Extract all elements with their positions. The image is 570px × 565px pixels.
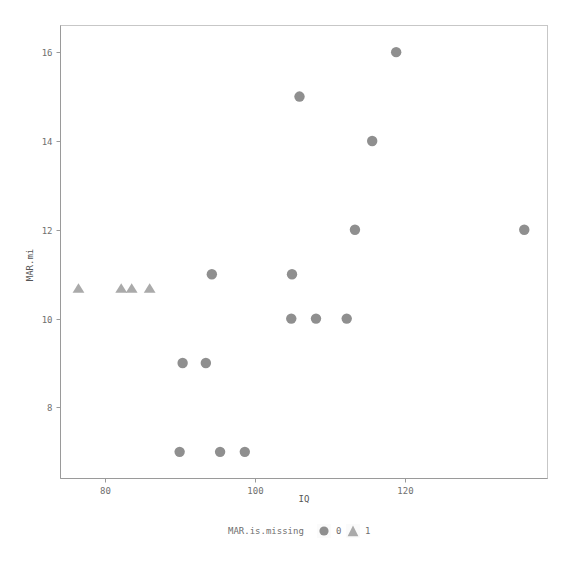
legend: MAR.is.missing 0 1 [228,524,370,538]
x-tick-label: 100 [247,486,263,496]
x-axis-title: IQ [299,494,310,504]
y-tick-label: 14 [42,137,53,147]
data-point-circle[interactable] [287,269,297,279]
y-tick-label: 16 [42,48,53,58]
y-tick-label: 8 [47,403,52,413]
data-point-circle[interactable] [391,47,401,57]
y-tick-label: 12 [42,226,53,236]
data-point-circle[interactable] [294,91,304,101]
data-point-circle[interactable] [350,225,360,235]
data-point-circle[interactable] [177,358,187,368]
data-point-circle[interactable] [174,447,184,457]
x-tick-label: 80 [100,486,111,496]
data-point-circle[interactable] [201,358,211,368]
data-point-circle[interactable] [215,447,225,457]
y-axis-title: MAR.mi [25,249,35,282]
figure-background [0,0,570,565]
legend-title: MAR.is.missing [228,526,304,536]
x-tick-label: 120 [397,486,413,496]
data-point-circle[interactable] [240,447,250,457]
legend-label-1: 1 [365,526,370,536]
data-point-circle[interactable] [342,313,352,323]
data-point-circle[interactable] [367,136,377,146]
legend-item-0[interactable]: 0 [317,524,341,538]
circle-marker-icon [319,526,328,535]
data-point-circle[interactable] [207,269,217,279]
scatter-plot-figure: 810121416 80100120 IQ MAR.mi MAR.is.miss… [0,0,570,565]
legend-item-1[interactable]: 1 [346,524,370,538]
data-point-circle[interactable] [311,313,321,323]
data-point-circle[interactable] [286,313,296,323]
y-tick-label: 10 [42,315,53,325]
legend-label-0: 0 [336,526,341,536]
data-point-circle[interactable] [519,225,529,235]
plot-svg: 810121416 80100120 IQ MAR.mi MAR.is.miss… [0,0,570,565]
